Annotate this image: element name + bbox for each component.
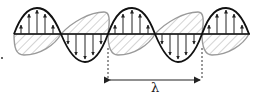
em-wave-diagram xyxy=(0,0,266,94)
magnetic-lobe xyxy=(61,12,109,34)
dot-marker xyxy=(1,57,3,59)
magnetic-lobe xyxy=(202,34,249,55)
magnetic-lobe xyxy=(14,34,61,55)
magnetic-lobe xyxy=(155,12,203,34)
magnetic-lobe xyxy=(108,34,155,55)
wavelength-label: λ xyxy=(151,80,159,94)
